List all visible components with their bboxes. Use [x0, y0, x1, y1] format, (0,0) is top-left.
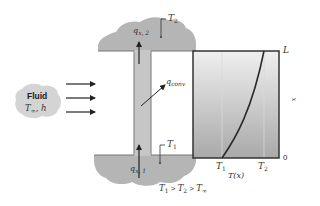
qx1-label: qx, 1: [130, 165, 146, 174]
t2-label: T2: [168, 14, 178, 24]
chart-y-tick-0: 0: [283, 154, 287, 162]
chart-y-axis-label: x: [290, 98, 297, 102]
fin-body: [134, 51, 151, 155]
chart-y-tick-L: L: [283, 46, 289, 55]
qconv-label: qconv: [166, 78, 185, 87]
fluid-title: Fluid: [27, 92, 47, 101]
chart-x-axis-label: T(x): [228, 172, 244, 180]
chart-x-tick-t1: T1: [216, 162, 226, 172]
chart-x-tick-t2: T2: [258, 162, 268, 172]
temperature-profile-chart: [193, 51, 279, 158]
qx2-label: qx, 2: [133, 27, 149, 36]
t1-label: T1: [167, 140, 177, 150]
fluid-properties: T∞, h: [25, 104, 47, 114]
temperature-condition: T1 > T2 > T∞: [159, 184, 207, 194]
